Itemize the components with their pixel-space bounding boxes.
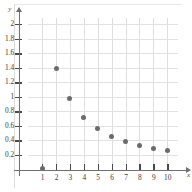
data-point bbox=[95, 126, 100, 131]
gridline-horizontal bbox=[28, 97, 178, 98]
data-point bbox=[81, 115, 86, 120]
y-axis-tick-label: 0.4 bbox=[5, 136, 14, 144]
x-axis-tick-label: 10 bbox=[161, 174, 175, 182]
gridline-horizontal bbox=[28, 53, 178, 54]
y-axis-tick-label: 2 bbox=[11, 20, 15, 28]
y-axis-tick-label: 0.2 bbox=[5, 151, 14, 159]
data-point bbox=[137, 143, 142, 148]
gridline-horizontal bbox=[28, 111, 178, 112]
y-axis-tick-label: 0.8 bbox=[5, 107, 14, 115]
data-point bbox=[165, 148, 170, 153]
x-axis-tick-label: 5 bbox=[91, 174, 105, 182]
data-point bbox=[109, 134, 114, 139]
x-axis-tick-label: 2 bbox=[50, 174, 64, 182]
gridline-horizontal bbox=[28, 140, 178, 141]
gridline-vertical bbox=[56, 18, 57, 170]
gridline-vertical bbox=[167, 18, 168, 170]
data-point bbox=[54, 66, 59, 71]
data-point bbox=[67, 96, 72, 101]
y-axis-label: y bbox=[8, 5, 11, 13]
gridline-vertical bbox=[42, 18, 43, 170]
x-axis-tick-label: 6 bbox=[105, 174, 119, 182]
plot-area: 0.20.40.60.811.21.41.61.82 12345678910 bbox=[14, 4, 192, 192]
data-point bbox=[151, 146, 156, 151]
y-axis-tick-label: 1.4 bbox=[5, 64, 14, 72]
x-axis-tick-label: 3 bbox=[63, 174, 77, 182]
gridline-horizontal bbox=[28, 155, 178, 156]
gridline-horizontal bbox=[28, 24, 178, 25]
x-axis-tick-label: 1 bbox=[36, 174, 50, 182]
x-axis-tick-label: 4 bbox=[77, 174, 91, 182]
gridline-vertical bbox=[98, 18, 99, 170]
y-axis-tick-label: 1.8 bbox=[5, 35, 14, 43]
y-axis-line bbox=[19, 12, 21, 176]
y-axis-arrow-icon bbox=[16, 7, 22, 12]
x-axis-tick-label: 7 bbox=[119, 174, 133, 182]
y-axis-tick-label: 1.6 bbox=[5, 49, 14, 57]
x-axis-label: x bbox=[187, 171, 190, 179]
gridline-vertical bbox=[70, 18, 71, 170]
gridline-horizontal bbox=[28, 126, 178, 127]
y-axis-tick-label: 1 bbox=[11, 93, 15, 101]
data-point bbox=[123, 139, 128, 144]
gridline-vertical bbox=[84, 18, 85, 170]
gridline-vertical bbox=[112, 18, 113, 170]
x-axis-line bbox=[14, 170, 186, 172]
gridline-horizontal bbox=[28, 39, 178, 40]
x-axis-tick-label: 9 bbox=[147, 174, 161, 182]
gridline-horizontal bbox=[28, 68, 178, 69]
x-axis-tick-label: 8 bbox=[133, 174, 147, 182]
scatter-chart: 0.20.40.60.811.21.41.61.82 12345678910 y… bbox=[0, 0, 192, 192]
gridline-horizontal bbox=[28, 82, 178, 83]
y-axis-tick-label: 1.2 bbox=[5, 78, 14, 86]
y-axis-tick-label: 0.6 bbox=[5, 122, 14, 130]
gridline-vertical bbox=[126, 18, 127, 170]
